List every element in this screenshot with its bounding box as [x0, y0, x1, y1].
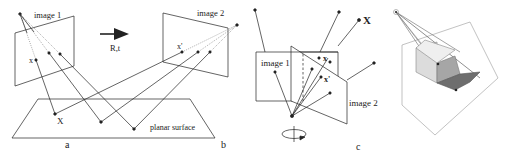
panel-c-label: c	[356, 141, 361, 152]
panel-d	[394, 10, 499, 136]
image1-label: image 1	[34, 10, 61, 20]
motion-label: R,t	[110, 43, 121, 53]
image2-label: image 2	[197, 8, 224, 18]
image1-label-c: image 1	[261, 58, 290, 68]
world-point-X-c	[358, 19, 361, 22]
panel-a-label: a	[65, 139, 70, 150]
point-xprime-label: x'	[177, 42, 183, 51]
image2-plane	[163, 13, 228, 77]
point-x-label: x	[29, 56, 33, 65]
panel-ab	[12, 13, 238, 138]
planar-surface-label: planar surface	[150, 123, 196, 132]
panel-b-label: b	[221, 139, 226, 150]
image1-plane	[15, 16, 74, 86]
world-point-x-label: X	[57, 116, 64, 126]
image2-label-c: image 2	[349, 98, 378, 108]
planar-surface	[12, 99, 215, 138]
panel-c	[254, 9, 376, 142]
point-xprime-label-c: x'	[324, 75, 330, 84]
point-x-label-c: x	[323, 54, 327, 63]
motion-arrow-icon	[100, 28, 129, 40]
camera2-center	[236, 24, 239, 27]
diagram-canvas: image 1 x X planar surface R,t image 2 x…	[0, 0, 507, 159]
rotation-icon	[282, 126, 306, 142]
world-point-X-label-c: X	[363, 14, 371, 26]
